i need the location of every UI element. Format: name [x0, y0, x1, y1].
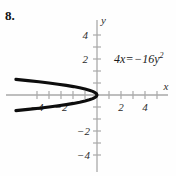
- x-tick-label-4: 4: [142, 101, 148, 113]
- coordinate-plot: −4 −2 2 4 4 2 −2 −4 y x: [0, 0, 176, 176]
- y-tick-label-neg4: −4: [77, 149, 90, 161]
- y-tick-label-neg2: −2: [77, 125, 90, 137]
- x-axis-label: x: [163, 80, 169, 92]
- y-axis-label: y: [100, 14, 106, 26]
- y-tick-label-4: 4: [83, 29, 89, 41]
- equation-rhs-exponent: 2: [160, 51, 164, 60]
- equation-operator: =: [125, 52, 134, 66]
- equation-label: 4x=−16y2: [114, 51, 164, 67]
- y-tick-label-2: 2: [83, 53, 89, 65]
- x-tick-label-2: 2: [118, 101, 124, 113]
- equation-rhs-coefficient: −16: [134, 52, 154, 66]
- equation-lhs: 4x: [114, 52, 125, 66]
- parabola-figure: 8.: [0, 0, 176, 176]
